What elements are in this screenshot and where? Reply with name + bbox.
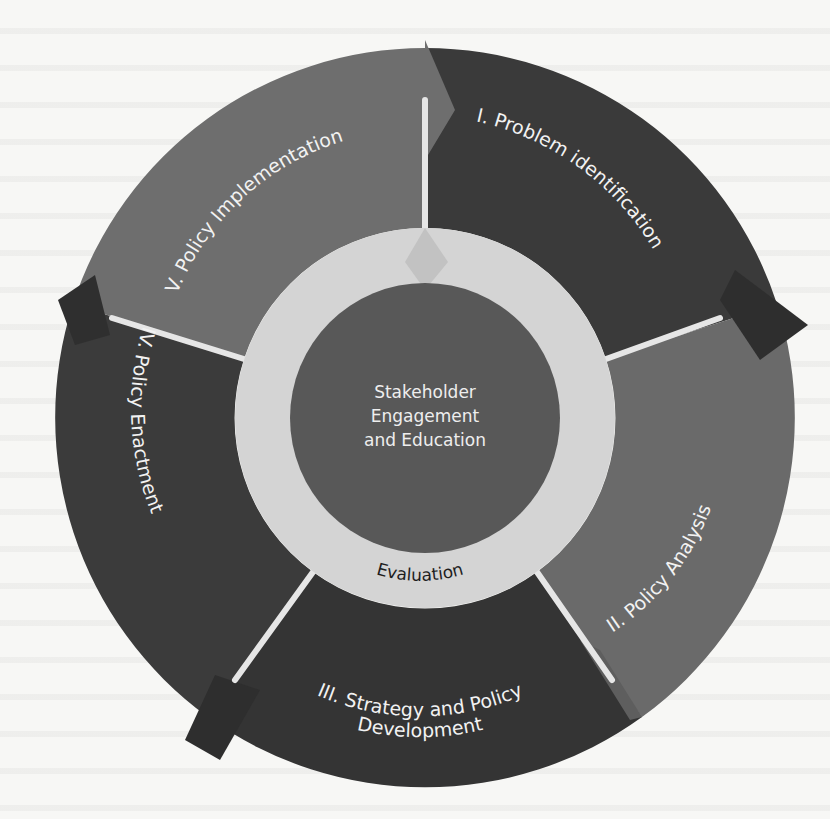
center-label-line3: and Education bbox=[364, 430, 486, 450]
diagram-canvas: V. Policy Implementation I. Problem iden… bbox=[0, 0, 830, 819]
policy-cycle-diagram: V. Policy Implementation I. Problem iden… bbox=[0, 0, 830, 819]
center-label-line2: Engagement bbox=[371, 406, 480, 426]
center-label-line1: Stakeholder bbox=[374, 382, 476, 402]
